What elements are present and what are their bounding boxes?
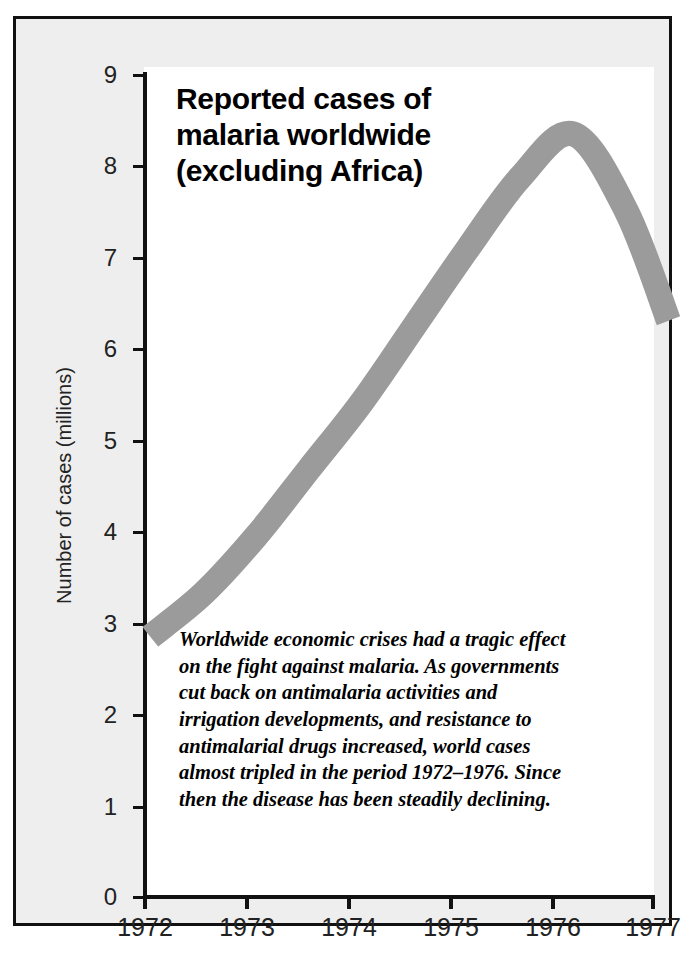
x-axis-line xyxy=(143,895,655,899)
y-tick-mark-5 xyxy=(133,440,144,443)
caption-line-4: irrigation developments, and resistance … xyxy=(179,706,581,733)
y-axis-title: Number of cases (millions) xyxy=(53,206,76,766)
caption-line-7: then the disease has been steadily decli… xyxy=(179,786,581,813)
y-tick-label-3: 3 xyxy=(77,612,117,636)
y-tick-mark-4 xyxy=(133,531,144,534)
x-tick-label-1976: 1976 xyxy=(508,915,598,940)
y-tick-label-7: 7 xyxy=(77,246,117,270)
x-tick-mark-1974 xyxy=(347,895,351,909)
y-tick-label-5: 5 xyxy=(77,429,117,453)
caption-line-6: almost tripled in the period 1972–1976. … xyxy=(179,759,581,786)
caption-text: Worldwide economic crises had a tragic e… xyxy=(179,626,581,812)
x-tick-mark-1975 xyxy=(449,895,453,909)
y-tick-mark-1 xyxy=(133,806,144,809)
caption-line-1: Worldwide economic crises had a tragic e… xyxy=(179,626,581,653)
x-tick-label-1972: 1972 xyxy=(100,915,190,940)
x-tick-label-1977: 1977 xyxy=(608,915,686,940)
y-tick-mark-3 xyxy=(133,623,144,626)
y-tick-label-8: 8 xyxy=(77,154,117,178)
chart-title-line-2: malaria worldwide xyxy=(176,117,506,153)
y-tick-mark-6 xyxy=(133,348,144,351)
y-tick-mark-9 xyxy=(133,74,144,77)
x-tick-mark-1973 xyxy=(245,895,249,909)
chart-panel-frame: 9 8 7 6 5 4 3 2 1 0 1972 1973 1974 1975 … xyxy=(13,16,672,926)
chart-title-line-1: Reported cases of xyxy=(176,81,506,117)
y-tick-label-9: 9 xyxy=(77,63,117,87)
x-tick-label-1975: 1975 xyxy=(406,915,496,940)
x-tick-mark-1976 xyxy=(551,895,555,909)
x-tick-mark-1972 xyxy=(143,895,147,909)
y-tick-label-1: 1 xyxy=(77,795,117,819)
y-tick-label-6: 6 xyxy=(77,337,117,361)
y-axis-line xyxy=(143,72,147,900)
y-tick-label-2: 2 xyxy=(77,703,117,727)
chart-title: Reported cases of malaria worldwide (exc… xyxy=(176,81,506,189)
caption-line-3: cut back on antimalaria activities and xyxy=(179,679,581,706)
x-tick-mark-1977 xyxy=(651,895,655,909)
figure-root: 9 8 7 6 5 4 3 2 1 0 1972 1973 1974 1975 … xyxy=(0,0,686,953)
y-tick-mark-2 xyxy=(133,714,144,717)
x-tick-label-1974: 1974 xyxy=(304,915,394,940)
y-tick-mark-7 xyxy=(133,257,144,260)
caption-line-2: on the fight against malaria. As governm… xyxy=(179,653,581,680)
y-tick-mark-8 xyxy=(133,165,144,168)
x-tick-label-1973: 1973 xyxy=(202,915,292,940)
y-tick-label-0: 0 xyxy=(77,885,117,909)
y-tick-label-4: 4 xyxy=(77,520,117,544)
caption-line-5: antimalarial drugs increased, world case… xyxy=(179,733,581,760)
chart-title-line-3: (excluding Africa) xyxy=(176,153,506,189)
